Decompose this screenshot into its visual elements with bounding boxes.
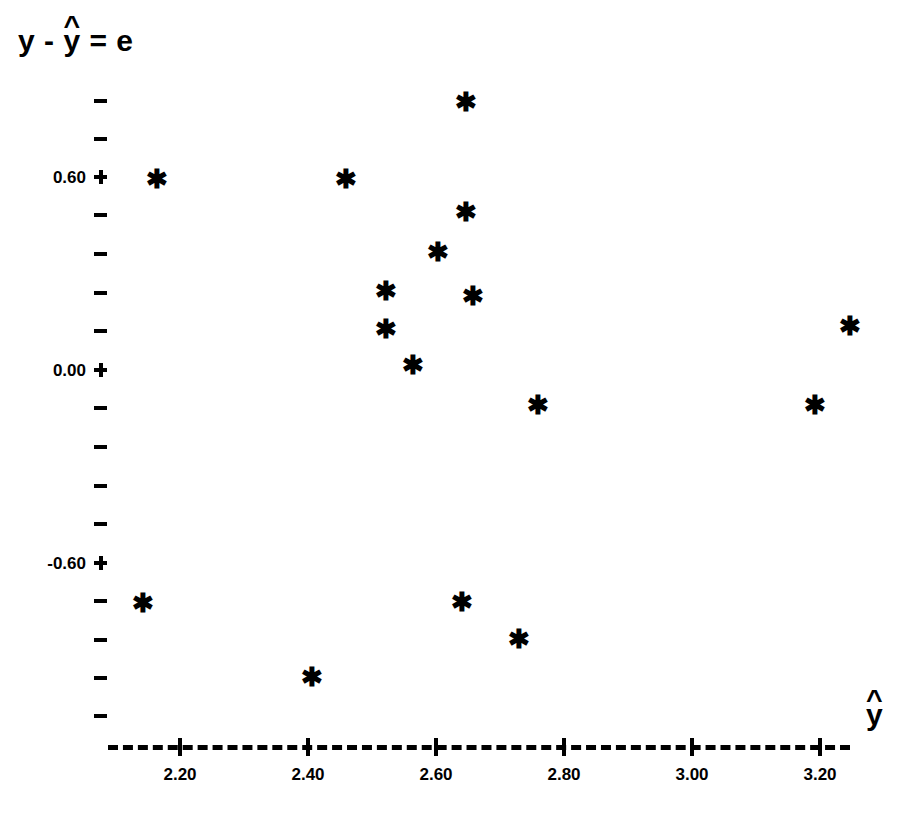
y-axis-minor-tick [94,213,107,217]
y-axis-minor-tick [94,291,107,295]
y-axis-minor-tick [94,714,107,718]
y-axis-minor-tick [94,137,107,141]
data-point-marker: ✱ [804,394,826,416]
x-axis-title-wrap: ^y [866,700,883,730]
y-axis-minor-tick [94,445,107,449]
y-fitted-hat-icon: ^ [63,11,80,40]
x-axis-major-tick [306,738,310,756]
y-axis-tick-label: 0.00 [12,362,86,379]
x-axis-tick-label: 2.80 [529,766,599,783]
x-axis-major-tick [178,738,182,756]
data-point-marker: ✱ [335,168,357,190]
x-axis-major-tick [690,738,694,756]
y-axis-title-equals: = [89,24,107,57]
y-axis-title-minus: - [44,24,55,57]
y-axis-title-y-observed: y [18,24,35,57]
y-axis-title-y-fitted-wrap: ^y [63,26,80,56]
y-axis-title-residual: e [116,24,133,57]
data-point-marker: ✱ [375,280,397,302]
data-point-marker: ✱ [462,285,484,307]
y-axis-minor-tick [94,252,107,256]
y-axis-major-tick [94,561,107,565]
x-axis-tick-label: 3.20 [785,766,855,783]
x-axis-major-tick [562,738,566,756]
x-axis-tick-label: 2.40 [273,766,343,783]
y-axis-major-tick [94,175,107,179]
data-point-marker: ✱ [508,628,530,650]
x-fitted-hat-icon: ^ [866,685,883,714]
data-point-marker: ✱ [451,591,473,613]
data-point-marker: ✱ [839,315,861,337]
y-axis-minor-tick [94,406,107,410]
residual-plot-figure: y - ^y = e 0.600.00-0.60 2.202.402.602.8… [0,0,924,823]
x-axis-dashed-line [108,745,850,750]
x-axis-major-tick [434,738,438,756]
y-axis-minor-tick [94,484,107,488]
x-axis-tick-label: 2.60 [401,766,471,783]
y-axis-tick-label: -0.60 [12,555,86,572]
y-axis-minor-tick [94,99,107,103]
x-axis-major-tick [818,738,822,756]
y-axis-major-tick [94,368,107,372]
y-axis-minor-tick [94,676,107,680]
data-point-marker: ✱ [427,241,449,263]
data-point-marker: ✱ [455,91,477,113]
data-point-marker: ✱ [455,201,477,223]
data-point-marker: ✱ [301,666,323,688]
y-axis-minor-tick [94,329,107,333]
y-axis-minor-tick [94,522,107,526]
data-point-marker: ✱ [402,354,424,376]
data-point-marker: ✱ [132,592,154,614]
x-axis-title: ^y [866,700,883,730]
data-point-marker: ✱ [375,318,397,340]
data-point-marker: ✱ [146,168,168,190]
data-point-marker: ✱ [527,394,549,416]
y-axis-tick-label: 0.60 [12,169,86,186]
x-axis-tick-label: 2.20 [145,766,215,783]
y-axis-minor-tick [94,599,107,603]
x-axis-tick-label: 3.00 [657,766,727,783]
y-axis-title: y - ^y = e [18,26,133,56]
y-axis-minor-tick [94,638,107,642]
